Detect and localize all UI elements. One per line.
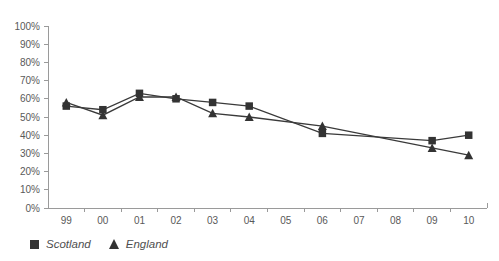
y-axis-ticks [44, 26, 48, 208]
x-tick-label: 00 [97, 215, 109, 226]
y-tick-label: 100% [14, 21, 40, 32]
data-point-scotland [319, 130, 327, 138]
x-tick-label: 06 [317, 215, 329, 226]
y-tick-label: 20% [20, 166, 40, 177]
y-tick-label: 90% [20, 39, 40, 50]
x-tick-label: 01 [134, 215, 146, 226]
y-tick-label: 80% [20, 57, 40, 68]
chart-legend: Scotland England [30, 235, 168, 253]
series-line-england [66, 97, 468, 155]
x-tick-label: 09 [427, 215, 439, 226]
y-tick-label: 60% [20, 93, 40, 104]
legend-item-scotland: Scotland [30, 238, 91, 250]
series-line-scotland [66, 93, 468, 140]
data-point-scotland [209, 99, 217, 107]
x-tick-label: 02 [170, 215, 182, 226]
legend-label-england: England [126, 238, 168, 250]
data-point-scotland [428, 137, 436, 145]
x-tick-label: 10 [463, 215, 475, 226]
data-point-scotland [245, 102, 253, 110]
y-tick-label: 70% [20, 75, 40, 86]
y-axis-labels: 0%10%20%30%40%50%60%70%80%90%100% [14, 21, 40, 214]
x-axis-labels: 990001020304050607080910 [61, 215, 475, 226]
y-tick-label: 30% [20, 148, 40, 159]
x-tick-label: 05 [280, 215, 292, 226]
x-tick-label: 08 [390, 215, 402, 226]
x-tick-label: 99 [61, 215, 73, 226]
y-tick-label: 0% [26, 203, 41, 214]
data-series-group [62, 90, 473, 160]
chart-container: 0%10%20%30%40%50%60%70%80%90%100% 990001… [0, 0, 499, 261]
triangle-marker-icon [109, 239, 119, 249]
x-tick-label: 07 [353, 215, 365, 226]
x-tick-label: 04 [244, 215, 256, 226]
legend-label-scotland: Scotland [46, 238, 91, 250]
legend-item-england: England [109, 238, 168, 250]
square-marker-icon [30, 240, 39, 249]
x-tick-label: 03 [207, 215, 219, 226]
y-tick-label: 10% [20, 184, 40, 195]
data-point-scotland [465, 131, 473, 139]
y-tick-label: 40% [20, 130, 40, 141]
line-chart-plot: 0%10%20%30%40%50%60%70%80%90%100% 990001… [0, 0, 499, 261]
y-tick-label: 50% [20, 112, 40, 123]
data-point-england [62, 98, 71, 107]
